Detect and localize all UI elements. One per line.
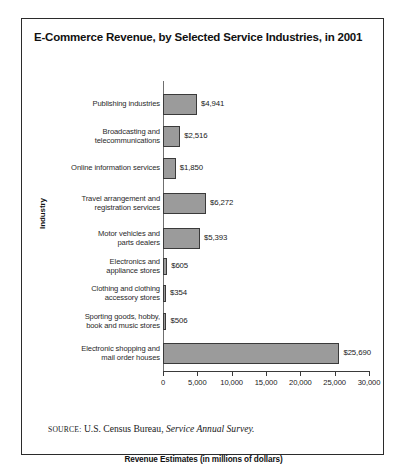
category-label-line: book and music stores — [46, 321, 160, 330]
category-label-line: Clothing and clothing — [46, 284, 160, 293]
bar — [163, 285, 166, 302]
bar-value-label: $2,516 — [184, 132, 207, 140]
category-label-line: Electronics and — [46, 257, 160, 266]
category-label-line: Sporting goods, hobby, — [46, 312, 160, 321]
x-tick-label: 10,000 — [220, 378, 243, 387]
category-label-line: accessory stores — [46, 293, 160, 302]
category-label-line: Publishing industries — [46, 99, 160, 108]
category-label-line: Travel arrangement and — [46, 194, 160, 203]
source-publication: Service Annual Survey. — [166, 423, 255, 434]
bar — [163, 126, 180, 147]
category-label: Publishing industries — [46, 99, 160, 108]
x-axis-title: Revenue Estimates (in millions of dollar… — [22, 455, 385, 464]
category-label-line: mail order houses — [46, 353, 160, 362]
bar-value-label: $25,690 — [343, 349, 370, 357]
bar-value-label: $1,850 — [180, 164, 203, 172]
category-label: Electronic shopping andmail order houses — [46, 344, 160, 362]
x-tick-mark — [335, 371, 336, 376]
x-tick-label: 30,000 — [358, 378, 381, 387]
bar — [163, 94, 197, 115]
bar — [163, 158, 176, 179]
source-text: U.S. Census Bureau, — [84, 423, 164, 434]
category-label: Motor vehicles andparts dealers — [46, 229, 160, 247]
x-tick-mark — [232, 371, 233, 376]
chart-title: E-Commerce Revenue, by Selected Service … — [34, 31, 374, 43]
bar-series: $4,941$2,516$1,850$6,272$5,393$605$354$5… — [163, 81, 373, 371]
bar-value-label: $6,272 — [210, 199, 233, 207]
x-tick-mark — [300, 371, 301, 376]
x-tick-label: 15,000 — [255, 378, 278, 387]
bar — [163, 228, 200, 249]
x-tick-label: 25,000 — [323, 378, 346, 387]
category-label: Online information services — [46, 163, 160, 172]
category-label: Travel arrangement andregistration servi… — [46, 194, 160, 212]
category-label: Sporting goods, hobby,book and music sto… — [46, 312, 160, 330]
x-tick-mark — [163, 371, 164, 376]
bar — [163, 258, 167, 275]
bar-value-label: $4,941 — [201, 100, 224, 108]
x-tick-mark — [197, 371, 198, 376]
category-label-line: Broadcasting and — [46, 127, 160, 136]
bar — [163, 193, 206, 214]
bar — [163, 313, 166, 330]
source-note: SOURCE: U.S. Census Bureau, Service Annu… — [48, 423, 255, 434]
x-tick-label: 0 — [161, 378, 165, 387]
plot-area: Industry Publishing industriesBroadcasti… — [22, 81, 385, 391]
source-label: SOURCE: — [48, 425, 81, 434]
category-label-line: Online information services — [46, 163, 160, 172]
category-label-line: telecommunications — [46, 136, 160, 145]
category-label-line: appliance stores — [46, 266, 160, 275]
bar-value-label: $5,393 — [204, 234, 227, 242]
x-tick-mark — [369, 371, 370, 376]
figure-frame: E-Commerce Revenue, by Selected Service … — [21, 18, 384, 455]
bar-value-label: $605 — [171, 262, 188, 270]
bar-value-label: $354 — [170, 289, 187, 297]
category-label: Broadcasting andtelecommunications — [46, 127, 160, 145]
category-label: Electronics andappliance stores — [46, 257, 160, 275]
bar — [163, 343, 339, 364]
category-label-line: registration services — [46, 203, 160, 212]
category-label-line: Electronic shopping and — [46, 344, 160, 353]
bar-value-label: $506 — [170, 317, 187, 325]
category-label-line: parts dealers — [46, 238, 160, 247]
x-tick-label: 5,000 — [188, 378, 207, 387]
category-axis-labels: Publishing industriesBroadcasting andtel… — [46, 81, 160, 371]
category-label-line: Motor vehicles and — [46, 229, 160, 238]
category-label: Clothing and clothingaccessory stores — [46, 284, 160, 302]
x-tick-mark — [266, 371, 267, 376]
x-tick-label: 20,000 — [289, 378, 312, 387]
